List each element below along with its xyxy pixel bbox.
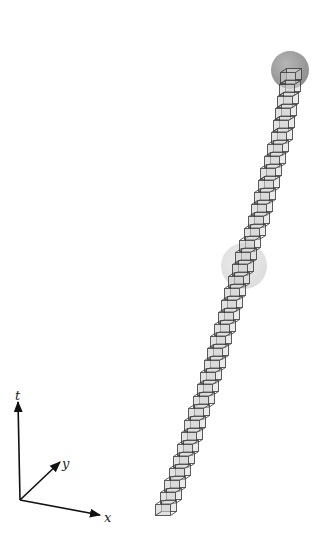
cube-segment [156, 501, 177, 516]
y-axis-arrow [20, 462, 60, 500]
x-axis-label: x [104, 510, 112, 525]
x-axis-arrow [20, 500, 100, 515]
worldline-box-chain [156, 69, 302, 516]
t-axis-label: t [15, 388, 21, 403]
y-axis-label: y [61, 456, 70, 471]
t-axis-arrow [18, 402, 20, 500]
axis-triad: t y x [15, 388, 112, 525]
worldline-figure: t y x [0, 0, 328, 555]
